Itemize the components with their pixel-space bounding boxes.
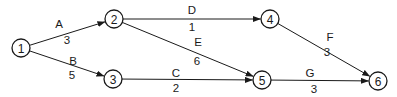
- node-label: 1: [18, 42, 25, 56]
- activity-label: A: [55, 18, 63, 30]
- activity-label: G: [306, 67, 315, 79]
- activity-label: F: [326, 31, 333, 43]
- node-6: 6: [369, 72, 387, 90]
- duration-label: 3: [324, 46, 330, 58]
- node-label: 6: [375, 75, 382, 89]
- activity-label: B: [69, 55, 77, 67]
- activity-label: D: [188, 4, 196, 16]
- duration-label: 2: [173, 82, 179, 94]
- duration-label: 3: [311, 83, 317, 95]
- edge-g-arrow: [271, 80, 369, 81]
- node-3: 3: [104, 70, 122, 88]
- activity-label: E: [194, 36, 202, 48]
- edge-labels: A3B5D1E6C2F3G3: [55, 4, 333, 95]
- edge-c-arrow: [122, 79, 253, 80]
- duration-label: 5: [69, 69, 75, 81]
- node-label: 2: [111, 13, 118, 27]
- network-diagram: A3B5D1E6C2F3G3 123456: [0, 0, 397, 97]
- duration-label: 3: [64, 34, 70, 46]
- duration-label: 6: [194, 55, 200, 67]
- edge-b-arrow: [30, 51, 104, 76]
- edges: [30, 19, 370, 81]
- node-2: 2: [105, 10, 123, 28]
- node-4: 4: [261, 10, 279, 28]
- node-5: 5: [253, 71, 271, 89]
- edge-e-arrow: [122, 22, 253, 76]
- duration-label: 1: [189, 21, 195, 33]
- node-label: 5: [259, 74, 266, 88]
- node-1: 1: [12, 39, 30, 57]
- node-label: 3: [110, 73, 117, 87]
- node-label: 4: [267, 13, 274, 27]
- activity-label: C: [172, 67, 180, 79]
